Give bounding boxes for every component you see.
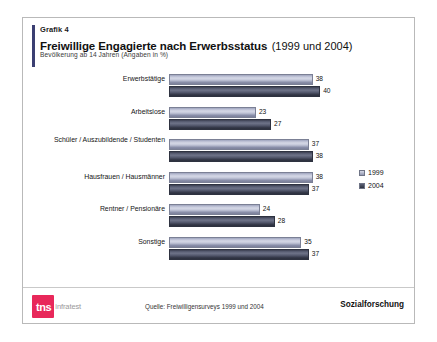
bar-group: Schüler / Auszubildende / Studenten3738	[23, 139, 414, 165]
bar-2004	[169, 119, 271, 130]
bar-group: Hausfrauen / Hausmänner3837	[23, 172, 414, 198]
legend-item-2004: 2004	[359, 176, 384, 189]
legend-item-1999: 1999	[359, 163, 384, 176]
source-note: Quelle: Freiwilligensurveys 1999 und 200…	[145, 303, 264, 310]
bar-value-label: 37	[312, 185, 319, 192]
legend-swatch-1999	[359, 170, 365, 176]
footer-divider	[23, 287, 414, 288]
category-label: Rentner / Pensionäre	[15, 204, 165, 214]
title-accent-bar	[32, 25, 35, 67]
department-label: Sozialforschung	[340, 300, 404, 309]
logo-mark-text: tns	[36, 302, 51, 313]
bar-value-label: 28	[278, 217, 285, 224]
bar-value-label: 37	[312, 140, 319, 147]
bar-group: Rentner / Pensionäre2428	[23, 204, 414, 230]
bar-2004	[169, 216, 275, 227]
bar-group: Arbeitslose2327	[23, 107, 414, 133]
bar-2004	[169, 151, 313, 162]
bar-group: Erwerbstätige3840	[23, 74, 414, 100]
bar-value-label: 37	[312, 250, 319, 257]
bar-value-label: 38	[316, 173, 323, 180]
figure-number: Grafik 4	[40, 25, 69, 34]
category-label: Schüler / Auszubildende / Studenten	[15, 135, 165, 145]
bar-1999	[169, 237, 301, 248]
legend-swatch-2004	[359, 183, 365, 189]
bar-1999	[169, 107, 256, 118]
bar-value-label: 23	[259, 108, 266, 115]
bar-value-label: 24	[263, 205, 270, 212]
chart-slide: Grafik 4 Freiwillige Engagierte nach Erw…	[22, 17, 415, 324]
category-label: Sonstige	[15, 237, 165, 247]
category-label: Hausfrauen / Hausmänner	[15, 172, 165, 182]
logo-mark-box: tns	[32, 295, 54, 318]
bar-group: Sonstige3537	[23, 237, 414, 263]
title-years-text: (1999 und 2004)	[272, 40, 353, 52]
legend-label-2004: 2004	[368, 182, 384, 189]
bar-value-label: 40	[323, 87, 330, 94]
category-label: Arbeitslose	[15, 107, 165, 117]
chart-legend: 1999 2004	[359, 163, 384, 189]
bar-2004	[169, 184, 309, 195]
logo-wordmark: infratest	[55, 302, 81, 311]
bar-value-label: 27	[274, 120, 281, 127]
chart-subtitle: Bevölkerung ab 14 Jahren (Angaben in %)	[40, 51, 168, 58]
bar-1999	[169, 139, 309, 150]
bar-1999	[169, 74, 313, 85]
bar-1999	[169, 172, 313, 183]
bar-value-label: 38	[316, 75, 323, 82]
chart-plot-area: Erwerbstätige3840Arbeitslose2327Schüler …	[23, 74, 414, 270]
slide-header: Grafik 4 Freiwillige Engagierte nach Erw…	[23, 18, 414, 71]
category-label: Erwerbstätige	[15, 74, 165, 84]
bar-1999	[169, 204, 260, 215]
tns-infratest-logo: tnsinfratest	[32, 295, 81, 318]
bar-2004	[169, 249, 309, 260]
bar-value-label: 38	[316, 152, 323, 159]
bar-2004	[169, 86, 320, 97]
bar-value-label: 35	[304, 238, 311, 245]
slide-footer: tnsinfratest Quelle: Freiwilligensurveys…	[23, 287, 414, 323]
